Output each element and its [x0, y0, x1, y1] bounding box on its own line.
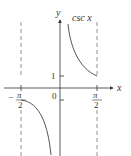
csc-graph: y csc x x 1 0 − π 2 π 2 — [0, 0, 131, 156]
csc-curve-upper — [68, 24, 97, 76]
x-tick-label-neg-sign: − — [8, 92, 13, 102]
function-label: csc x — [72, 12, 92, 23]
origin-label: 0 — [52, 91, 57, 101]
x-tick-label-pos-den: 2 — [94, 100, 99, 110]
y-tick-label-1: 1 — [51, 71, 56, 81]
x-tick-label-pos-num: π — [93, 90, 98, 100]
x-axis-label: x — [116, 82, 122, 93]
x-tick-label-neg-den: 2 — [18, 100, 23, 110]
y-axis-label: y — [55, 7, 61, 18]
csc-curve-lower — [21, 100, 51, 155]
x-tick-label-neg-num: π — [17, 90, 22, 100]
